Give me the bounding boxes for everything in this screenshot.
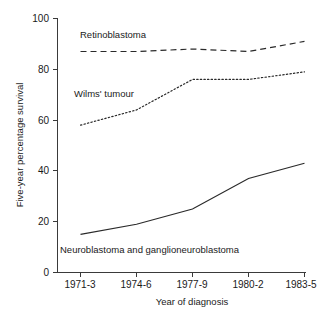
x-tick-label-1971: 1971-3 <box>64 279 96 290</box>
x-tick-label-1980: 1980-2 <box>232 279 264 290</box>
chart-canvas: 100 80 60 40 20 0 1971-3 1974-6 1977-9 1… <box>0 0 325 320</box>
y-tick-label-80: 80 <box>38 64 50 75</box>
series-label-wilms-tumour: Wilms' tumour <box>74 88 134 99</box>
x-tick-label-1977: 1977-9 <box>176 279 208 290</box>
survival-line-chart: 100 80 60 40 20 0 1971-3 1974-6 1977-9 1… <box>0 0 325 320</box>
x-axis-title: Year of diagnosis <box>156 296 229 307</box>
y-tick-label-40: 40 <box>38 165 50 176</box>
y-axis-ticks <box>53 19 58 273</box>
series-line-neuroblastoma <box>81 163 305 234</box>
y-tick-label-20: 20 <box>38 216 50 227</box>
x-tick-label-1974: 1974-6 <box>120 279 152 290</box>
y-tick-label-0: 0 <box>43 267 49 278</box>
x-tick-label-1983: 1983-5 <box>285 279 317 290</box>
series-label-neuroblastoma: Neuroblastoma and ganglioneuroblastoma <box>60 244 240 255</box>
y-tick-label-100: 100 <box>32 13 49 24</box>
y-tick-label-60: 60 <box>38 115 50 126</box>
series-line-retinoblastoma <box>81 41 305 51</box>
y-axis-title: Five-year percentage survival <box>14 83 25 208</box>
series-label-retinoblastoma: Retinoblastoma <box>80 29 147 40</box>
x-axis-ticks <box>81 273 305 278</box>
